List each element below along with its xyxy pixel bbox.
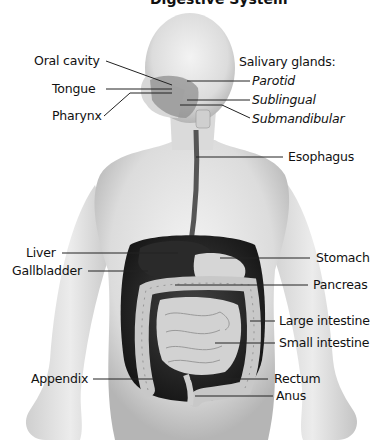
label-stomach: Stomach bbox=[316, 251, 370, 265]
label-small-intestine: Small intestine bbox=[279, 336, 369, 350]
label-anus: Anus bbox=[276, 389, 306, 403]
label-oral-cavity: Oral cavity bbox=[34, 54, 100, 68]
label-appendix: Appendix bbox=[31, 372, 88, 386]
label-pancreas: Pancreas bbox=[313, 278, 368, 292]
label-large-intestine: Large intestine bbox=[279, 314, 370, 328]
label-pharynx: Pharynx bbox=[52, 109, 102, 123]
label-liver: Liver bbox=[26, 246, 56, 260]
label-submandibular: Submandibular bbox=[252, 112, 345, 126]
label-parotid: Parotid bbox=[252, 74, 295, 88]
label-esophagus: Esophagus bbox=[288, 150, 354, 164]
label-rectum: Rectum bbox=[274, 372, 321, 386]
label-gallbladder: Gallbladder bbox=[12, 264, 82, 278]
label-sublingual: Sublingual bbox=[252, 93, 316, 107]
label-tongue: Tongue bbox=[52, 82, 95, 96]
label-salivary-glands: Salivary glands: bbox=[239, 55, 336, 69]
